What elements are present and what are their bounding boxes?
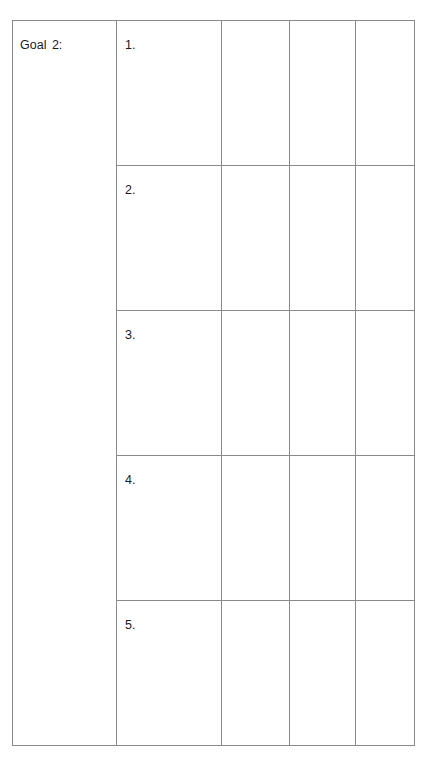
empty-cell[interactable]	[290, 601, 356, 746]
empty-cell[interactable]	[222, 601, 290, 746]
step-number: 5.	[117, 601, 221, 632]
empty-cell[interactable]	[356, 166, 415, 311]
step-cell[interactable]: 1.	[117, 21, 222, 166]
empty-cell[interactable]	[222, 311, 290, 456]
step-cell[interactable]: 2.	[117, 166, 222, 311]
empty-cell[interactable]	[290, 166, 356, 311]
empty-cell[interactable]	[222, 21, 290, 166]
goal-label: Goal 2:	[13, 21, 116, 52]
step-cell[interactable]: 3.	[117, 311, 222, 456]
step-cell[interactable]: 5.	[117, 601, 222, 746]
empty-cell[interactable]	[222, 456, 290, 601]
empty-cell[interactable]	[290, 311, 356, 456]
empty-cell[interactable]	[222, 166, 290, 311]
empty-cell[interactable]	[290, 21, 356, 166]
table-row: Goal 2: 1.	[13, 21, 415, 166]
empty-cell[interactable]	[356, 456, 415, 601]
empty-cell[interactable]	[356, 601, 415, 746]
step-number: 1.	[117, 21, 221, 52]
step-number: 2.	[117, 166, 221, 197]
step-number: 3.	[117, 311, 221, 342]
step-number: 4.	[117, 456, 221, 487]
step-cell[interactable]: 4.	[117, 456, 222, 601]
empty-cell[interactable]	[356, 21, 415, 166]
empty-cell[interactable]	[290, 456, 356, 601]
goal-cell: Goal 2:	[13, 21, 117, 746]
goal-table: Goal 2: 1. 2. 3. 4. 5.	[12, 20, 415, 746]
empty-cell[interactable]	[356, 311, 415, 456]
